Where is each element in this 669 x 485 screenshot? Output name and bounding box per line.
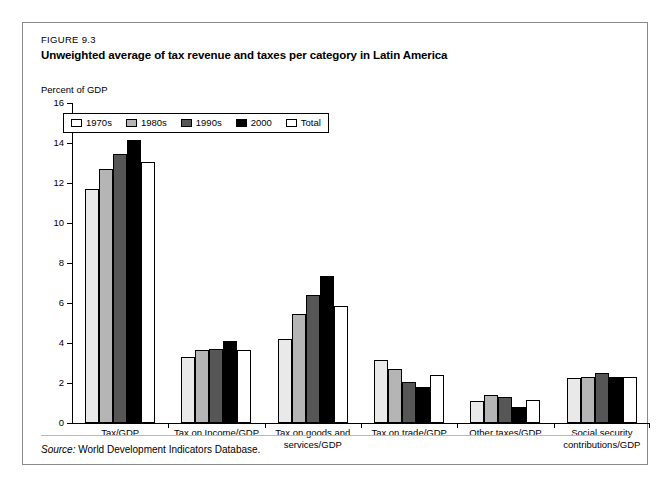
bar bbox=[237, 350, 251, 423]
bar bbox=[498, 397, 512, 423]
legend-swatch-icon bbox=[286, 119, 297, 127]
bar bbox=[209, 349, 223, 423]
bar bbox=[623, 377, 637, 423]
bar bbox=[526, 400, 540, 423]
bar-group bbox=[72, 103, 168, 423]
legend-swatch-icon bbox=[236, 119, 247, 127]
bar bbox=[402, 382, 416, 423]
legend-item-1980s[interactable]: 1980s bbox=[126, 117, 167, 129]
bar bbox=[567, 378, 581, 423]
legend-item-label: Total bbox=[301, 117, 321, 129]
legend-swatch-icon bbox=[126, 119, 137, 127]
bar-group bbox=[361, 103, 457, 423]
bar-group bbox=[554, 103, 650, 423]
x-axis-category-label-line: Other taxes/GDP bbox=[457, 427, 553, 439]
y-axis-tick-label: 0 bbox=[59, 416, 64, 429]
plot-area: 0246810121416 bbox=[72, 103, 650, 423]
x-axis-category-label-line: Tax on Income/GDP bbox=[168, 427, 264, 439]
x-axis-category-label-line: Social security bbox=[554, 427, 650, 439]
bar bbox=[99, 169, 113, 423]
legend-item-label: 1990s bbox=[196, 117, 222, 129]
legend-item-total[interactable]: Total bbox=[286, 117, 321, 129]
y-axis-tick-label: 2 bbox=[59, 376, 64, 389]
x-axis-category-label: Tax on goods andservices/GDP bbox=[265, 427, 361, 451]
y-axis-unit-label: Percent of GDP bbox=[41, 84, 108, 95]
bar bbox=[292, 314, 306, 423]
x-axis-category-label: Tax on trade/GDP bbox=[361, 427, 457, 439]
y-axis-tick-label: 8 bbox=[59, 256, 64, 269]
legend-swatch-icon bbox=[71, 119, 82, 127]
bar bbox=[85, 189, 99, 423]
bar bbox=[388, 369, 402, 423]
legend-item-1990s[interactable]: 1990s bbox=[181, 117, 222, 129]
legend-item-label: 1970s bbox=[86, 117, 112, 129]
bar bbox=[278, 339, 292, 423]
x-axis-category-label: Other taxes/GDP bbox=[457, 427, 553, 439]
source-note: Source: World Development Indicators Dat… bbox=[41, 444, 260, 455]
y-axis-tick: 0 bbox=[67, 423, 72, 424]
figure-title: Unweighted average of tax revenue and ta… bbox=[41, 49, 447, 61]
bar bbox=[320, 276, 334, 423]
bar bbox=[141, 162, 155, 423]
x-axis-category-label-line: contributions/GDP bbox=[554, 439, 650, 451]
x-axis-category-label-line: Tax/GDP bbox=[72, 427, 168, 439]
bar bbox=[223, 341, 237, 423]
bar-group bbox=[457, 103, 553, 423]
bar bbox=[127, 140, 141, 423]
bar bbox=[416, 387, 430, 423]
bars-layer bbox=[72, 103, 650, 423]
legend-item-label: 2000 bbox=[251, 117, 272, 129]
bar bbox=[595, 373, 609, 423]
source-text: World Development Indicators Database. bbox=[78, 444, 260, 455]
x-axis-category-label: Social securitycontributions/GDP bbox=[554, 427, 650, 451]
bar bbox=[609, 377, 623, 423]
figure-frame: FIGURE 9.3 Unweighted average of tax rev… bbox=[22, 22, 648, 465]
bar bbox=[113, 154, 127, 423]
bar bbox=[430, 375, 444, 423]
legend-item-1970s[interactable]: 1970s bbox=[71, 117, 112, 129]
x-axis-category-label-line: Tax on goods and bbox=[265, 427, 361, 439]
bar bbox=[512, 407, 526, 423]
bar-group bbox=[168, 103, 264, 423]
bar bbox=[306, 295, 320, 423]
source-label: Source: bbox=[41, 444, 75, 455]
bar bbox=[470, 401, 484, 423]
bar bbox=[334, 306, 348, 423]
x-axis-category-label-line: Tax on trade/GDP bbox=[361, 427, 457, 439]
y-axis-tick-label: 4 bbox=[59, 336, 64, 349]
legend-swatch-icon bbox=[181, 119, 192, 127]
x-axis-category-label: Tax on Income/GDP bbox=[168, 427, 264, 439]
x-axis-category-label: Tax/GDP bbox=[72, 427, 168, 439]
bar bbox=[181, 357, 195, 423]
figure-number: FIGURE 9.3 bbox=[41, 34, 96, 45]
chart-legend: 1970s1980s1990s2000Total bbox=[63, 113, 329, 133]
bar bbox=[195, 350, 209, 423]
y-axis-tick-label: 12 bbox=[53, 176, 64, 189]
x-axis-category-label-line: services/GDP bbox=[265, 439, 361, 451]
legend-item-label: 1980s bbox=[141, 117, 167, 129]
y-axis-tick-label: 16 bbox=[53, 96, 64, 109]
y-axis-tick-label: 10 bbox=[53, 216, 64, 229]
bar-group bbox=[265, 103, 361, 423]
bar bbox=[581, 377, 595, 423]
legend-item-2000[interactable]: 2000 bbox=[236, 117, 272, 129]
source-divider bbox=[41, 435, 631, 436]
y-axis-tick-label: 14 bbox=[53, 136, 64, 149]
y-axis-tick-label: 6 bbox=[59, 296, 64, 309]
bar bbox=[484, 395, 498, 423]
bar bbox=[374, 360, 388, 423]
